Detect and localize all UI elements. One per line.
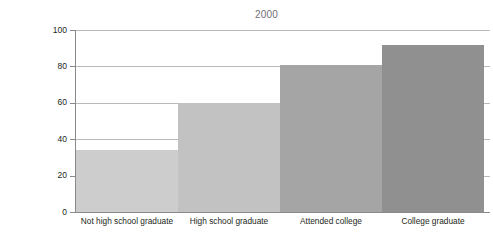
gridline-0 [76, 212, 490, 213]
x-axis-category-label: College graduate [382, 216, 484, 227]
y-axis-tick-60 [70, 103, 75, 104]
y-axis-label-40: 40 [40, 135, 67, 144]
y-axis-tick-40 [70, 139, 75, 140]
y-axis-label-20: 20 [40, 171, 67, 180]
y-axis-tick-100 [70, 30, 75, 31]
gridline-100 [76, 30, 490, 31]
x-axis-category-label: Not high school graduate [76, 216, 178, 227]
bar [178, 103, 280, 212]
y-axis-tick-80 [70, 66, 75, 67]
chart-title: 2000 [40, 9, 493, 21]
bar [76, 150, 178, 212]
y-axis-tick-20 [70, 176, 75, 177]
bar [280, 65, 382, 212]
x-axis-category-label: High school graduate [178, 216, 280, 227]
y-axis-label-80: 80 [40, 62, 67, 71]
y-axis-label-0: 0 [40, 208, 67, 217]
bar [382, 45, 484, 212]
bar-chart-figure: 2000 020406080100 Not high school gradua… [40, 16, 493, 240]
y-axis-label-60: 60 [40, 98, 67, 107]
y-axis-tick-0 [70, 212, 75, 213]
x-axis-category-label: Attended college [280, 216, 382, 227]
plot-area [76, 30, 484, 212]
y-axis-label-100: 100 [40, 26, 67, 35]
